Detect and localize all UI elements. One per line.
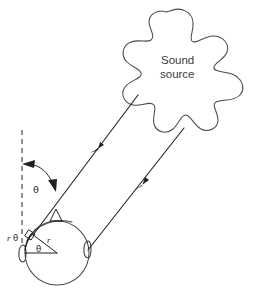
- sound-source-label-line1: Sound: [161, 54, 194, 66]
- incident-ray-right: [88, 128, 184, 250]
- label-arc-theta: θ: [13, 233, 18, 243]
- ray-left-arrowhead: [90, 142, 104, 153]
- label-radius-r: r: [47, 235, 51, 245]
- label-arc-r: r: [7, 233, 11, 243]
- sound-source-label-line2: source: [160, 68, 195, 80]
- incident-ray-left: [33, 95, 138, 235]
- label-theta-incident: θ: [33, 184, 39, 195]
- diagram-canvas: Sound source: [0, 0, 257, 303]
- theta-arrow-left-head: [22, 160, 35, 168]
- label-theta-center: θ: [36, 244, 41, 254]
- figure-root: Sound source: [0, 0, 257, 303]
- theta-angle-arrow: [22, 160, 57, 192]
- theta-arrow-right-head: [48, 179, 57, 192]
